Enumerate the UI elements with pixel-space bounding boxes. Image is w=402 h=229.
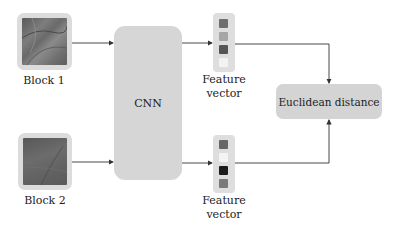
feature-vector-1-label: Feature vector [194, 73, 254, 101]
feature-cell [219, 19, 228, 28]
feature-cell [219, 58, 228, 67]
feature-vector-2 [213, 135, 235, 193]
feature-label-line2: vector [194, 87, 254, 101]
feature-cell [219, 32, 228, 41]
feature-vector-2-label: Feature vector [194, 194, 254, 222]
feature-cell [219, 153, 228, 162]
block-2-frame [18, 133, 72, 190]
block-1-label: Block 1 [4, 74, 84, 87]
block-2-label: Block 2 [5, 194, 85, 207]
feature-label-line1: Feature [194, 194, 254, 208]
block-1-image [22, 18, 67, 65]
feature-label-line2: vector [194, 208, 254, 222]
cnn-box: CNN [114, 26, 182, 180]
cnn-label: CNN [134, 97, 162, 110]
euclidean-distance-box: Euclidean distance [276, 84, 382, 119]
block-1-frame [17, 13, 72, 70]
block-2-image [23, 138, 67, 185]
feature-cell [219, 166, 228, 175]
feature-cell [219, 45, 228, 54]
feature-label-line1: Feature [194, 73, 254, 87]
feature-cell [219, 140, 228, 149]
feature-cell [219, 179, 228, 188]
euclidean-distance-label: Euclidean distance [278, 96, 379, 108]
feature-vector-1 [213, 13, 235, 72]
